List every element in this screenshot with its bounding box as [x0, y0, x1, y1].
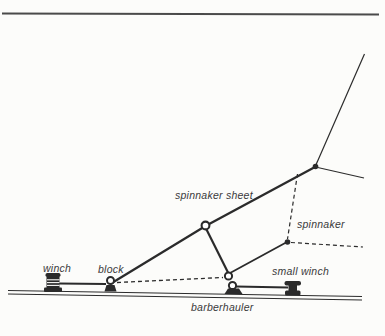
winch-rope-line: [59, 284, 106, 285]
block-label: block: [98, 264, 124, 275]
block-icon: [105, 277, 117, 292]
barberhauler-block-icon: [225, 272, 243, 294]
barberhauler-label: barberhauler: [191, 302, 254, 313]
sail-foot-line: [316, 167, 365, 178]
barberhauler-pull-line: [206, 229, 229, 274]
winch-label: winch: [43, 263, 71, 274]
spinnaker-label: spinnaker: [297, 219, 345, 230]
small-winch-rope-line: [236, 287, 288, 288]
tack-point-dot: [285, 239, 291, 245]
deck-lower-line: [8, 294, 362, 300]
barberhauler-dashed-line: [117, 278, 223, 283]
spinnaker-leech-dashed-line: [288, 174, 298, 239]
sail-leech-line: [315, 54, 365, 167]
top-rule: [2, 14, 379, 15]
spinnaker-foot-dashed-line: [291, 243, 363, 248]
spinnaker-sheet-label: spinnaker sheet: [175, 190, 253, 201]
rigging-diagram: [0, 0, 385, 336]
clew-point-dot: [313, 164, 319, 170]
diagram-canvas: winch block spinnaker sheet spinnaker sm…: [0, 0, 385, 336]
sheet-lead-ring-icon: [202, 222, 210, 230]
winch-icon: [44, 273, 62, 292]
small-winch-label: small winch: [272, 266, 329, 277]
